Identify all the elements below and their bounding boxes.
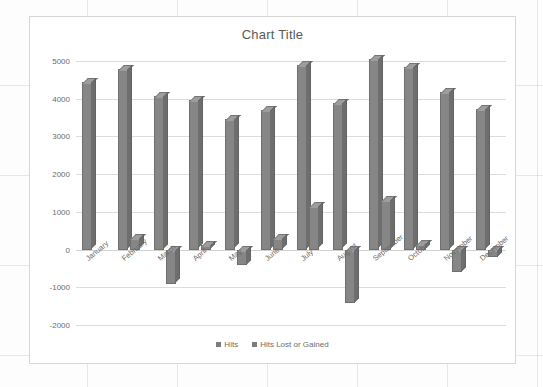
- bar-july-hits-lost-or-gained: [309, 206, 319, 249]
- bar-side-face: [485, 105, 490, 249]
- bar-side-face: [127, 65, 132, 249]
- bar-side-face: [342, 99, 347, 248]
- gridline: 5000: [76, 61, 506, 62]
- bar-side-face: [234, 115, 239, 248]
- bar-july-hits: [297, 65, 307, 250]
- chart-legend: HitsHits Lost or Gained: [30, 340, 515, 349]
- bar-side-face: [413, 63, 418, 249]
- bar-january-hits: [82, 82, 92, 250]
- bar-september-hits: [369, 59, 379, 249]
- gridline: -2000: [76, 325, 506, 326]
- y-axis-tick-label: -1000: [50, 283, 70, 292]
- plot-area: 500040003000200010000-1000-2000JanuaryFe…: [76, 61, 506, 325]
- gridline: -1000: [76, 287, 506, 288]
- y-axis-tick-label: 3000: [52, 132, 70, 141]
- y-axis-tick-label: -2000: [50, 321, 70, 330]
- bar-august-hits: [333, 103, 343, 249]
- y-axis-tick-label: 5000: [52, 57, 70, 66]
- bar-side-face: [354, 246, 359, 303]
- y-axis-tick-label: 4000: [52, 94, 70, 103]
- chart-screenshot: Chart Title 500040003000200010000-1000-2…: [0, 0, 543, 387]
- chart-frame: Chart Title 500040003000200010000-1000-2…: [29, 16, 516, 364]
- bar-december-hits: [476, 109, 486, 250]
- bar-side-face: [91, 78, 96, 249]
- bar-may-hits: [225, 119, 235, 249]
- bar-side-face: [449, 88, 454, 249]
- legend-item-2[interactable]: Hits Lost or Gained: [252, 340, 328, 349]
- bar-november-hits: [440, 92, 450, 250]
- bar-march-hits: [154, 96, 164, 250]
- bar-side-face: [270, 106, 275, 249]
- bar-june-hits: [261, 110, 271, 250]
- bar-side-face: [318, 202, 323, 248]
- bar-side-face: [163, 92, 168, 249]
- y-axis-tick-label: 0: [66, 245, 70, 254]
- bar-february-hits: [118, 69, 128, 250]
- legend-swatch-icon: [216, 342, 221, 347]
- y-axis-tick-label: 1000: [52, 207, 70, 216]
- bar-side-face: [198, 96, 203, 248]
- legend-label: Hits Lost or Gained: [260, 340, 328, 349]
- legend-label: Hits: [224, 340, 238, 349]
- bar-october-hits: [404, 67, 414, 250]
- bar-april-hits: [189, 100, 199, 249]
- legend-swatch-icon: [252, 342, 257, 347]
- chart-title: Chart Title: [30, 27, 515, 42]
- legend-item-1[interactable]: Hits: [216, 340, 238, 349]
- y-axis-tick-label: 2000: [52, 170, 70, 179]
- bar-side-face: [246, 246, 251, 265]
